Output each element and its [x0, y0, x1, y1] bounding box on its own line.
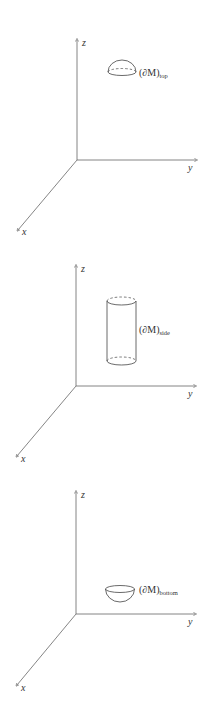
surface-label: (∂M)side — [139, 324, 170, 336]
x-axis-label: x — [20, 453, 26, 464]
lower-hemisphere-surface — [106, 586, 135, 602]
panel-top: z y x (∂M)top — [0, 0, 209, 240]
panel-bottom: z y x (∂M)bottom — [0, 480, 209, 720]
open-cylinder-surface — [107, 297, 136, 365]
x-axis — [17, 614, 76, 685]
panel-side: z y x (∂M)side — [0, 240, 209, 480]
y-axis-label: y — [187, 388, 193, 399]
upper-hemisphere-surface — [108, 60, 136, 76]
axes-3d: z y x (∂M)side — [0, 240, 209, 480]
z-axis-label: z — [80, 263, 85, 274]
x-axis-label: x — [20, 682, 26, 693]
x-axis-label: x — [21, 226, 27, 237]
surface-label: (∂M)bottom — [139, 584, 178, 596]
y-axis-label: y — [187, 162, 193, 173]
z-axis-label: z — [80, 489, 85, 500]
x-axis — [17, 386, 76, 456]
x-axis — [18, 160, 77, 230]
surface-label: (∂M)top — [139, 67, 168, 79]
axes-3d: z y x (∂M)top — [0, 0, 209, 240]
z-axis-label: z — [81, 37, 86, 48]
y-axis-label: y — [187, 616, 193, 627]
axes-3d: z y x (∂M)bottom — [0, 480, 209, 721]
